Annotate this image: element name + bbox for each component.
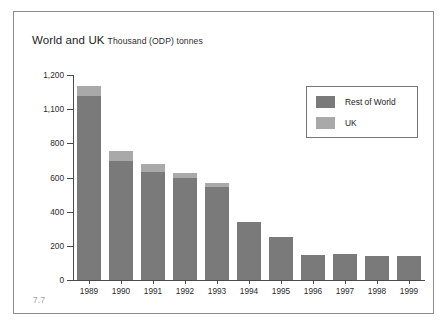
x-axis-tick	[281, 280, 282, 284]
x-axis-tick	[409, 280, 410, 284]
x-axis-tick-label: 1999	[400, 286, 418, 296]
bar-group[interactable]	[205, 75, 229, 280]
legend-label-uk: UK	[345, 118, 357, 128]
x-axis-tick	[313, 280, 314, 284]
x-axis-tick	[345, 280, 346, 284]
bar-segment[interactable]	[205, 187, 229, 280]
bar-segment[interactable]	[109, 151, 133, 161]
figure-number-label: 7.7	[33, 296, 45, 305]
x-axis-tick	[89, 280, 90, 284]
x-axis-tick-label: 1994	[240, 286, 258, 296]
figure-frame: World and UKThousand (ODP) tonnes 1,2001…	[13, 11, 434, 314]
bar-segment[interactable]	[173, 178, 197, 280]
bar-group[interactable]	[269, 75, 293, 280]
bar-segment[interactable]	[397, 256, 421, 280]
chart-title-subtitle: Thousand (ODP) tonnes	[108, 36, 203, 46]
y-axis-tick-label: 1,100	[24, 104, 64, 114]
x-axis-tick-label: 1997	[336, 286, 354, 296]
x-axis-tick-label: 1989	[80, 286, 98, 296]
bar-segment[interactable]	[205, 183, 229, 187]
legend-label-rest-of-world: Rest of World	[345, 97, 396, 107]
x-axis-tick-label: 1990	[112, 286, 130, 296]
x-axis-tick	[217, 280, 218, 284]
bar-group[interactable]	[141, 75, 165, 280]
x-axis-tick-label: 1993	[208, 286, 226, 296]
legend-item-rest-of-world[interactable]: Rest of World	[316, 95, 396, 108]
bar-segment[interactable]	[269, 237, 293, 280]
y-axis-tick-label: 1,200	[24, 70, 64, 80]
bar-segment[interactable]	[333, 254, 357, 280]
chart-title-main: World and UK	[32, 34, 105, 46]
y-axis-tick-label: 600	[24, 173, 64, 183]
bar-segment[interactable]	[365, 256, 389, 280]
bar-group[interactable]	[77, 75, 101, 280]
bar-segment[interactable]	[141, 172, 165, 280]
bar-group[interactable]	[237, 75, 261, 280]
x-axis-tick-label: 1998	[368, 286, 386, 296]
x-axis-tick-label: 1991	[144, 286, 162, 296]
bar-segment[interactable]	[173, 173, 197, 178]
x-axis-tick-label: 1992	[176, 286, 194, 296]
y-axis-tick-label: 0	[24, 275, 64, 285]
bar-segment[interactable]	[109, 161, 133, 280]
legend-swatch-uk	[316, 117, 335, 129]
x-axis-tick	[249, 280, 250, 284]
y-axis-tick-label: 200	[24, 241, 64, 251]
chart-legend: Rest of World UK	[306, 86, 418, 138]
y-axis-tick-label: 800	[24, 138, 64, 148]
bar-segment[interactable]	[77, 96, 101, 280]
bar-segment[interactable]	[301, 255, 325, 280]
y-axis-tick-label: 400	[24, 207, 64, 217]
bar-group[interactable]	[109, 75, 133, 280]
x-axis-tick-label: 1995	[272, 286, 290, 296]
x-axis-tick-label: 1996	[304, 286, 322, 296]
bar-group[interactable]	[173, 75, 197, 280]
page-title: World and UKThousand (ODP) tonnes	[32, 31, 203, 47]
bar-segment[interactable]	[237, 222, 261, 280]
bar-segment[interactable]	[77, 86, 101, 96]
legend-item-uk[interactable]: UK	[316, 116, 357, 129]
bar-segment[interactable]	[141, 164, 165, 173]
x-axis-tick	[377, 280, 378, 284]
x-axis-tick	[153, 280, 154, 284]
legend-swatch-rest-of-world	[316, 96, 335, 108]
x-axis-tick	[185, 280, 186, 284]
y-axis-tick	[67, 280, 73, 281]
x-axis-tick	[121, 280, 122, 284]
